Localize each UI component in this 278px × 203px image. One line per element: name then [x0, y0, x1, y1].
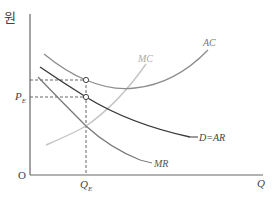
monopoly-diagram: 원 O Q PE QE AC MC D=AR MR — [0, 0, 278, 203]
ac-curve — [44, 50, 208, 89]
mr-label-leader — [140, 160, 152, 163]
price-label: PE — [14, 90, 27, 105]
demand-label: D=AR — [198, 132, 225, 143]
quantity-label-sub: E — [87, 185, 93, 193]
mc-label: MC — [137, 53, 153, 64]
x-axis-label: Q — [257, 177, 265, 189]
price-point-marker — [83, 94, 88, 99]
quantity-label-main: Q — [80, 178, 88, 190]
y-axis-label: 원 — [4, 10, 16, 25]
price-label-sub: E — [21, 97, 27, 105]
mr-curve — [38, 77, 140, 160]
mr-label: MR — [153, 158, 168, 169]
mc-curve — [46, 64, 146, 145]
ac-label: AC — [202, 37, 216, 48]
ac-point-marker — [83, 77, 88, 82]
quantity-label: QE — [80, 178, 93, 193]
origin-label: O — [18, 169, 26, 181]
